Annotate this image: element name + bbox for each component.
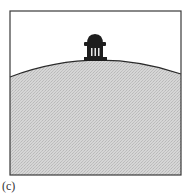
hill [10,60,181,175]
illustration-svg [0,0,188,193]
building-columns [91,48,100,56]
figure-caption: (c) [2,180,15,192]
illustration: (c) [0,0,188,193]
